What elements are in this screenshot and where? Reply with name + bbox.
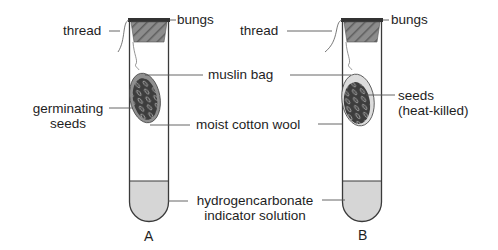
tube-label-b: B xyxy=(358,227,367,243)
thread-b xyxy=(325,20,342,52)
label-seeds-heat-killed: seeds (heat-killed) xyxy=(398,88,469,118)
tube-label-a: A xyxy=(144,228,153,244)
test-tube-a xyxy=(118,18,170,222)
label-thread-b: thread xyxy=(240,23,278,38)
label-thread-a: thread xyxy=(63,23,101,38)
label-moist-cotton-wool: moist cotton wool xyxy=(196,117,300,132)
test-tube-b xyxy=(325,18,383,222)
bung-a xyxy=(131,22,167,42)
label-muslin-bag: muslin bag xyxy=(208,67,273,82)
label-bungs-b: bungs xyxy=(391,12,428,27)
label-indicator-solution: hydrogencarbonate indicator solution xyxy=(188,193,322,223)
label-bungs-a: bungs xyxy=(177,12,214,27)
thread-a xyxy=(118,20,129,52)
bung-b xyxy=(344,22,380,42)
bung-top-a xyxy=(128,18,170,22)
bung-top-b xyxy=(341,18,383,22)
label-germinating-seeds: germinating seeds xyxy=(28,101,108,131)
